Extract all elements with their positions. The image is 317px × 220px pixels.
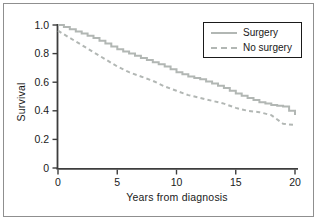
x-tick-label: 0 [55, 176, 61, 188]
y-tick-label: 0 [43, 162, 49, 174]
x-axis-title: Years from diagnosis [58, 191, 296, 203]
y-tick-label: 0.4 [34, 104, 49, 116]
y-tick-label: 1.0 [34, 19, 49, 31]
legend: Surgery No surgery [203, 22, 302, 58]
y-tick-label: 0.8 [34, 47, 49, 59]
x-tick-label: 10 [171, 176, 183, 188]
no-surgery-line-swatch [211, 47, 237, 49]
y-tick-label: 0.6 [34, 76, 49, 88]
legend-label-no-surgery: No surgery [243, 42, 292, 53]
surgery-line-swatch [211, 32, 237, 34]
x-tick-label: 20 [289, 176, 301, 188]
y-axis-title: Survival [15, 72, 27, 132]
legend-label-surgery: Surgery [243, 27, 278, 38]
x-tick-label: 5 [114, 176, 120, 188]
survival-chart-figure: 1.00.80.60.40.2005101520 Survival Years … [0, 0, 317, 220]
legend-item-no-surgery: No surgery [204, 41, 301, 54]
y-tick-label: 0.2 [34, 133, 49, 145]
legend-item-surgery: Surgery [204, 26, 301, 39]
x-tick-label: 15 [230, 176, 242, 188]
